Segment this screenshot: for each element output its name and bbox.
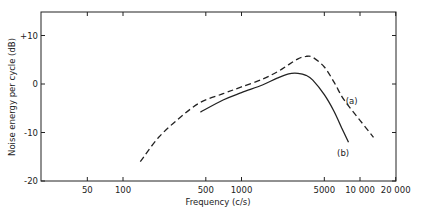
curve-b: [200, 73, 348, 142]
x-tick-label: 500: [198, 185, 214, 195]
x-tick-label: 10 000: [345, 185, 375, 195]
y-axis-title: Noise energy per cycle (dB): [7, 38, 17, 156]
curve-label-a: (a): [346, 96, 358, 106]
y-tick-label: -20: [24, 176, 38, 186]
x-axis-title: Frequency (c/s): [185, 197, 250, 207]
x-axis-ticks: 501005001000500010 00020 000: [82, 12, 411, 195]
data-curves: [140, 56, 373, 162]
x-tick-label: 1000: [231, 185, 253, 195]
x-tick-label: 50: [82, 185, 93, 195]
noise-energy-chart: +100-10-20 501005001000500010 00020 000 …: [0, 0, 425, 214]
x-tick-label: 5000: [314, 185, 336, 195]
x-tick-label: 100: [115, 185, 131, 195]
curve-label-b: (b): [337, 148, 349, 158]
y-tick-label: 0: [33, 79, 38, 89]
curve-labels: (a)(b): [337, 96, 357, 158]
x-tick-label: 20 000: [381, 185, 411, 195]
y-tick-label: -10: [24, 128, 38, 138]
curve-a: [140, 56, 373, 162]
y-tick-label: +10: [20, 31, 38, 41]
